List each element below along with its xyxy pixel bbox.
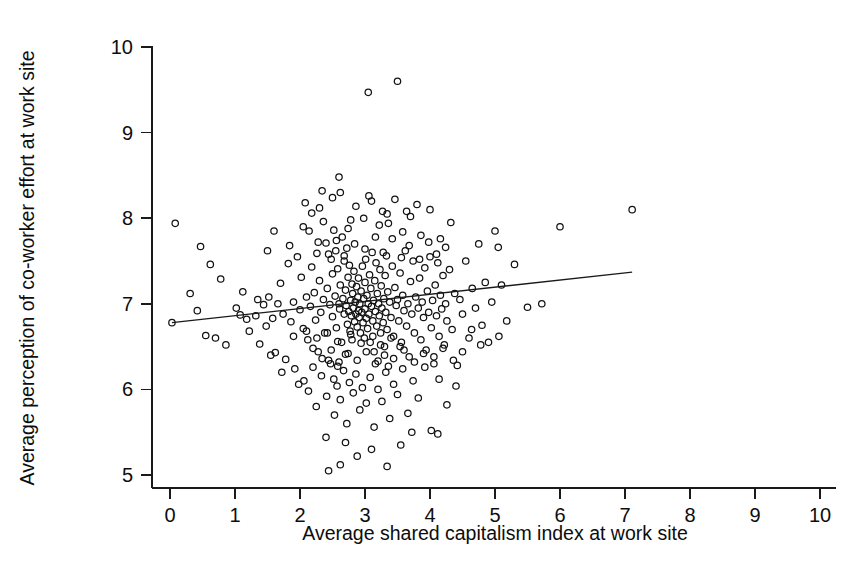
scatter-point — [459, 349, 465, 355]
scatter-point — [401, 307, 407, 313]
scatter-point — [371, 424, 377, 430]
scatter-point — [409, 429, 415, 435]
scatter-point — [369, 249, 375, 255]
scatter-point — [292, 366, 298, 372]
scatter-point — [331, 376, 337, 382]
regression-fit-line — [172, 272, 632, 323]
scatter-point — [297, 307, 303, 313]
scatter-point — [449, 326, 455, 332]
scatter-point — [303, 294, 309, 300]
scatter-point — [406, 354, 412, 360]
scatter-point — [376, 313, 382, 319]
scatter-point — [387, 415, 393, 421]
scatter-point — [325, 251, 331, 257]
scatter-point — [311, 289, 317, 295]
scatter-point — [351, 241, 357, 247]
scatter-point — [496, 333, 502, 339]
scatter-point — [320, 218, 326, 224]
scatter-point — [340, 367, 346, 373]
scatter-point — [422, 364, 428, 370]
scatter-point — [383, 369, 389, 375]
scatter-point — [264, 248, 270, 254]
scatter-point — [277, 280, 283, 286]
y-tick-label: 6 — [122, 378, 133, 400]
scatter-point — [390, 381, 396, 387]
scatter-point — [270, 315, 276, 321]
scatter-point — [379, 398, 385, 404]
scatter-point — [381, 343, 387, 349]
scatter-point — [329, 271, 335, 277]
scatter-point — [368, 446, 374, 452]
scatter-point — [372, 234, 378, 240]
scatter-point — [306, 228, 312, 234]
scatter-point — [271, 228, 277, 234]
scatter-point — [354, 324, 360, 330]
scatter-point — [331, 227, 337, 233]
scatter-point — [290, 299, 296, 305]
scatter-point — [444, 318, 450, 324]
scatter-point — [382, 272, 388, 278]
scatter-point — [420, 314, 426, 320]
scatter-point — [469, 285, 475, 291]
scatter-point — [302, 200, 308, 206]
scatter-point — [446, 266, 452, 272]
scatter-point — [172, 220, 178, 226]
scatter-point — [279, 369, 285, 375]
scatter-point — [333, 248, 339, 254]
scatter-point — [524, 304, 530, 310]
scatter-point — [307, 303, 313, 309]
scatter-point — [335, 338, 341, 344]
scatter-point — [334, 383, 340, 389]
axes-group — [152, 46, 836, 488]
scatter-point — [380, 319, 386, 325]
scatter-point — [285, 260, 291, 266]
scatter-point — [318, 373, 324, 379]
scatter-point — [367, 374, 373, 380]
scatter-point — [329, 313, 335, 319]
scatter-point — [336, 174, 342, 180]
scatter-point — [424, 288, 430, 294]
scatter-point — [450, 357, 456, 363]
scatter-point — [368, 285, 374, 291]
scatter-point — [298, 274, 304, 280]
scatter-point — [314, 335, 320, 341]
scatter-point — [504, 318, 510, 324]
scatter-point — [426, 239, 432, 245]
scatter-point — [415, 305, 421, 311]
scatter-point — [223, 342, 229, 348]
chart-canvas: 5678910012345678910 Average shared capit… — [0, 0, 862, 563]
scatter-point — [442, 301, 448, 307]
scatter-point — [345, 225, 351, 231]
scatter-point — [203, 332, 209, 338]
scatter-point — [359, 263, 365, 269]
scatter-point — [433, 313, 439, 319]
y-tick-label: 5 — [122, 464, 133, 486]
scatter-point — [305, 388, 311, 394]
scatter-point — [346, 379, 352, 385]
scatter-point — [313, 403, 319, 409]
scatter-point — [331, 412, 337, 418]
scatter-point — [381, 352, 387, 358]
scatter-point — [398, 339, 404, 345]
scatter-point — [362, 256, 368, 262]
scatter-point — [418, 232, 424, 238]
scatter-point — [333, 325, 339, 331]
scatter-point — [433, 251, 439, 257]
scatter-point — [403, 208, 409, 214]
scatter-point — [426, 309, 432, 315]
scatter-point — [427, 206, 433, 212]
scatter-point — [207, 261, 213, 267]
scatter-point — [416, 275, 422, 281]
scatter-point — [255, 296, 261, 302]
scatter-point — [324, 285, 330, 291]
scatter-point — [403, 323, 409, 329]
scatter-point — [286, 242, 292, 248]
scatter-point — [337, 282, 343, 288]
scatter-point — [410, 258, 416, 264]
scatter-point — [358, 288, 364, 294]
scatter-point — [280, 311, 286, 317]
scatter-point — [194, 307, 200, 313]
scatter-point — [366, 193, 372, 199]
scatter-point — [387, 299, 393, 305]
scatter-point — [288, 319, 294, 325]
